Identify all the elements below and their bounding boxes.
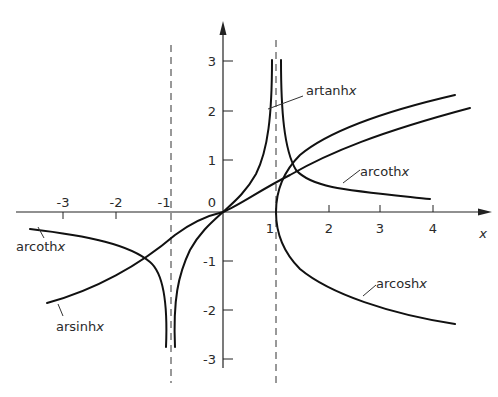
label-artanh: artanhx	[306, 83, 357, 98]
x-tick-label: -3	[57, 195, 70, 210]
x-tick-label: -2	[110, 195, 123, 210]
x-axis-arrow-icon	[478, 209, 492, 216]
label-arsinh: arsinhx	[56, 319, 104, 334]
y-tick-label: -2	[203, 303, 216, 318]
y-tick-label: 1	[208, 153, 216, 168]
label-arcosh: arcoshx	[376, 276, 427, 291]
x-tick-label: 4	[429, 221, 437, 236]
label-arcoth-left: arcothx	[16, 239, 65, 254]
y-tick-label: 2	[208, 104, 216, 119]
y-tick-label: -1	[203, 254, 216, 269]
y-axis-arrow-icon	[220, 21, 227, 35]
y-axis	[220, 21, 227, 368]
curve-arcosh	[276, 95, 455, 324]
x-tick-label: -1	[158, 195, 171, 210]
x-tick-label: 1	[266, 221, 274, 236]
x-axis	[16, 209, 492, 216]
label-arcoth-right: arcothx	[360, 164, 409, 179]
x-axis-label: x	[478, 226, 487, 241]
x-tick-label: 2	[325, 221, 333, 236]
y-tick-labels: 3 2 1 -1 -2 -3	[203, 54, 216, 367]
x-tick-labels: -3 -2 -1 1 2 3 4 0 x	[57, 195, 488, 241]
y-tick-label: 3	[208, 54, 216, 69]
inverse-hyperbolic-functions-plot: -3 -2 -1 1 2 3 4 0 x 3 2 1 -1 -2 -3	[0, 0, 498, 397]
x-tick-label: 3	[376, 221, 384, 236]
origin-label: 0	[208, 195, 216, 210]
y-tick-label: -3	[203, 352, 216, 367]
